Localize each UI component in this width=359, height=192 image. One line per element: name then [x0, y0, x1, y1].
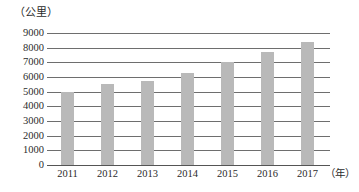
x-tick-label-2015: 2015 [208, 168, 248, 180]
x-tick-label-2016: 2016 [248, 168, 288, 180]
y-tick-label: 1000 [2, 145, 44, 156]
x-axis-tick-labels: 2011 2012 2013 2014 2015 2016 2017 [47, 168, 330, 184]
y-tick-label: 3000 [2, 116, 44, 127]
x-axis-unit-label: （年） [325, 168, 355, 180]
bar-2014 [181, 73, 194, 165]
bar-2011 [61, 92, 74, 165]
y-tick-label: 0 [2, 160, 44, 171]
y-tick-label: 8000 [2, 43, 44, 54]
y-tick-label: 9000 [2, 28, 44, 39]
y-axis-tick-labels: 9000 8000 7000 6000 5000 4000 3000 2000 … [0, 33, 44, 165]
plot-area [47, 33, 330, 165]
bar-2015 [221, 62, 234, 165]
y-tick-label: 5000 [2, 87, 44, 98]
bar-2016 [261, 52, 274, 165]
y-tick-label: 2000 [2, 131, 44, 142]
y-tick-label: 7000 [2, 57, 44, 68]
x-axis-baseline [47, 165, 330, 166]
bar-chart: （公里） 9000 8000 7000 6000 5000 4000 3000 … [0, 0, 359, 192]
x-tick-label-2011: 2011 [48, 168, 88, 180]
bar-2012 [101, 84, 114, 165]
bar-2013 [141, 81, 154, 165]
bar-series [47, 33, 330, 165]
x-tick-label-2017: 2017 [288, 168, 328, 180]
x-tick-label-2014: 2014 [168, 168, 208, 180]
y-axis-unit-label: （公里） [14, 6, 58, 19]
x-tick-label-2013: 2013 [128, 168, 168, 180]
y-tick-label: 4000 [2, 101, 44, 112]
x-tick-label-2012: 2012 [88, 168, 128, 180]
y-tick-label: 6000 [2, 72, 44, 83]
bar-2017 [301, 42, 314, 165]
